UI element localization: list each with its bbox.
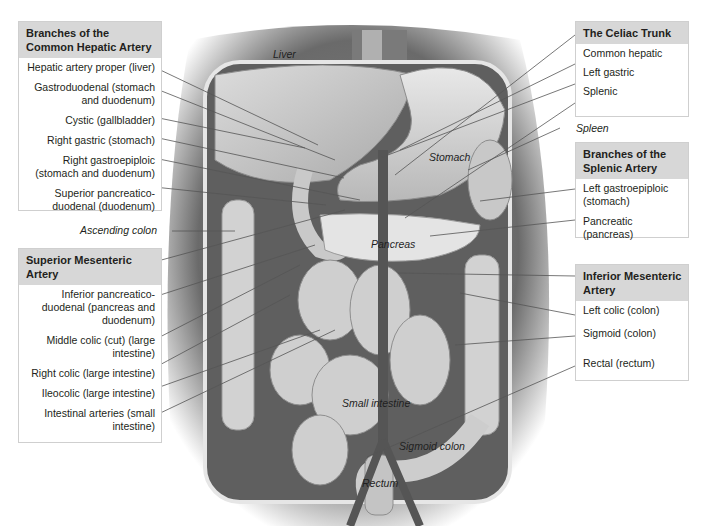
pancreas-label: Pancreas — [371, 238, 415, 250]
inferior-pancreaticoduodenal-label: Inferior pancreatico-duodenal (pancreas … — [23, 288, 155, 327]
right-gastric-label: Right gastric (stomach) — [23, 134, 155, 147]
right-gastroepiploic-label: Right gastroepiploic (stomach and duoden… — [23, 154, 155, 180]
ileocolic-label: Ileocolic (large intestine) — [23, 387, 155, 400]
common-hepatic-title: Branches of the Common Hepatic Artery — [19, 22, 161, 58]
rectal-label: Rectal (rectum) — [583, 357, 682, 370]
spleen-label: Spleen — [576, 122, 609, 135]
pancreatic-label: Pancreatic (pancreas) — [583, 215, 682, 241]
hepatic-artery-proper-label: Hepatic artery proper (liver) — [23, 61, 155, 74]
middle-colic-label: Middle colic (cut) (large intestine) — [23, 334, 155, 360]
left-gastric-label: Left gastric — [583, 66, 682, 79]
stomach-label: Stomach — [429, 151, 470, 163]
celiac-trunk-box: The Celiac Trunk Common hepatic Left gas… — [575, 21, 689, 117]
right-colic-label: Right colic (large intestine) — [23, 367, 155, 380]
rectum-label: Rectum — [362, 477, 398, 489]
superior-mesenteric-title: Superior Mesenteric Artery — [19, 249, 161, 285]
descending-colon-shape — [465, 255, 499, 435]
left-colic-label: Left colic (colon) — [583, 304, 682, 317]
splenic-label: Splenic — [583, 85, 682, 98]
inferior-mesenteric-title: Inferior Mesenteric Artery — [576, 265, 688, 301]
superior-pancreaticoduodenal-label: Superior pancreatico-duodenal (duodenum) — [23, 187, 155, 213]
cystic-label: Cystic (gallbladder) — [23, 114, 155, 127]
superior-mesenteric-box: Superior Mesenteric Artery Inferior panc… — [18, 248, 162, 443]
splenic-artery-box: Branches of the Splenic Artery Left gast… — [575, 142, 689, 238]
ascending-colon-shape — [222, 200, 254, 430]
liver-label: Liver — [273, 48, 296, 60]
common-hepatic-box: Branches of the Common Hepatic Artery He… — [18, 21, 162, 211]
inferior-mesenteric-box: Inferior Mesenteric Artery Left colic (c… — [575, 264, 689, 381]
sigmoid-colon-label: Sigmoid colon — [399, 440, 465, 452]
spleen-shape — [468, 140, 512, 220]
small-intestine-label: Small intestine — [342, 397, 410, 409]
sigmoid-label: Sigmoid (colon) — [583, 327, 682, 340]
common-hepatic-label: Common hepatic — [583, 47, 682, 60]
ascending-colon-label: Ascending colon — [80, 224, 157, 237]
splenic-artery-title: Branches of the Splenic Artery — [576, 143, 688, 179]
celiac-trunk-title: The Celiac Trunk — [576, 22, 688, 44]
left-gastroepiploic-label: Left gastroepiploic (stomach) — [583, 182, 682, 208]
gastroduodenal-label: Gastroduodenal (stomach and duodenum) — [23, 81, 155, 107]
intestinal-arteries-label: Intestinal arteries (small intestine) — [23, 407, 155, 433]
